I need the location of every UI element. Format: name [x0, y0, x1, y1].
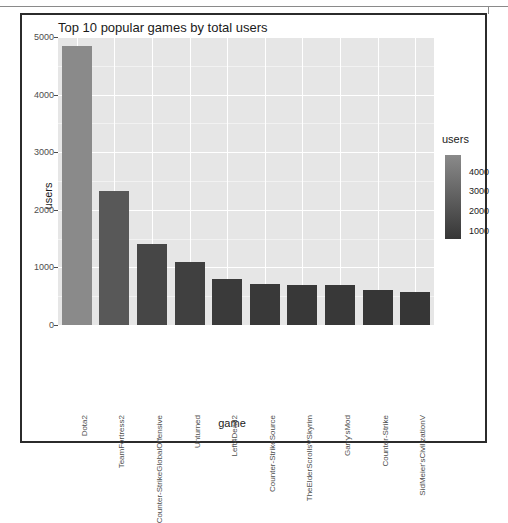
top-rule-tick — [488, 6, 489, 14]
bar-Garry'sMod[interactable] — [325, 285, 355, 325]
colorbar-tick-mark — [461, 172, 464, 173]
bar-TheElderScrollsVSkyrim[interactable] — [287, 285, 317, 325]
bar-Left4Dead2[interactable] — [212, 279, 242, 325]
top-divider-rule — [0, 6, 508, 7]
bar-TeamFortress2[interactable] — [99, 191, 129, 325]
y-tick-label: 1000 — [20, 262, 54, 272]
x-tick-label: TheElderScrollsVSkyrim — [305, 415, 314, 501]
x-axis-tick-labels: Dota2TeamFortress2Counter-StrikeGlobalOf… — [58, 327, 434, 417]
x-tick-label: Counter-Strike — [381, 415, 390, 467]
x-tick-label: TeamFortress2 — [117, 415, 126, 468]
colorbar-tick-mark — [461, 191, 464, 192]
gridline-vertical — [378, 37, 379, 325]
y-axis-tick-labels: 010002000300040005000 — [22, 37, 54, 325]
gridline-vertical — [302, 37, 303, 325]
gridline-vertical — [340, 37, 341, 325]
x-tick-label: Counter-StrikeGlobalOffensive — [155, 415, 164, 523]
colorbar-tick-label: 2000 — [469, 206, 489, 216]
colorbar-tick-label: 4000 — [469, 167, 489, 177]
legend-title: users — [442, 133, 469, 145]
plot-panel — [58, 37, 434, 325]
gridline-vertical — [415, 37, 416, 325]
colorbar-tick-label: 3000 — [469, 186, 489, 196]
figure-frame: Top 10 popular games by total users user… — [20, 13, 487, 443]
bar-Unturned[interactable] — [175, 262, 205, 325]
y-tick-label: 3000 — [20, 147, 54, 157]
colorbar-tick-mark — [461, 211, 464, 212]
page-title: Top 10 popular games by total users — [58, 20, 268, 35]
gridline-vertical — [265, 37, 266, 325]
bar-Dota2[interactable] — [62, 46, 92, 325]
colorbar-tick-label: 1000 — [469, 226, 489, 236]
y-tick-label: 2000 — [20, 205, 54, 215]
bar-Counter-Strike[interactable] — [363, 290, 393, 325]
colorbar-tick-mark — [461, 231, 464, 232]
x-tick-label: Garry'sMod — [343, 415, 352, 456]
bar-Counter-StrikeGlobalOffensive[interactable] — [137, 244, 167, 325]
x-tick-label: Left4Dead2 — [230, 415, 239, 456]
x-tick-label: Unturned — [193, 415, 202, 448]
x-tick-label: Counter-StrikeSource — [268, 415, 277, 492]
x-tick-label: Dota2 — [80, 415, 89, 436]
y-tick-label: 0 — [20, 320, 54, 330]
colorbar-gradient — [445, 155, 461, 239]
bar-SidMeier'sCivilizationV[interactable] — [400, 292, 430, 325]
colorbar-scale: 1000200030004000 — [445, 155, 461, 239]
x-tick-label: SidMeier'sCivilizationV — [418, 415, 427, 496]
y-tick-label: 5000 — [20, 32, 54, 42]
y-tick-label: 4000 — [20, 90, 54, 100]
y-tick-mark — [54, 325, 58, 326]
figure-inner: Top 10 popular games by total users user… — [22, 15, 485, 441]
bar-Counter-StrikeSource[interactable] — [250, 284, 280, 325]
